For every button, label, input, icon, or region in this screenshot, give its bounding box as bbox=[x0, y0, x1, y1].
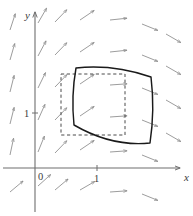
field-arrow bbox=[55, 141, 67, 153]
field-arrow bbox=[10, 108, 14, 124]
field-arrow bbox=[10, 138, 14, 155]
field-arrow bbox=[110, 191, 127, 192]
field-arrow bbox=[38, 73, 45, 88]
field-arrow bbox=[10, 44, 15, 60]
field-arrow bbox=[80, 10, 94, 20]
regions bbox=[61, 67, 153, 144]
field-arrow bbox=[110, 18, 127, 20]
field-arrow bbox=[10, 76, 14, 92]
original-square-region bbox=[61, 74, 125, 135]
vector-field-arrows bbox=[10, 8, 181, 200]
field-arrow bbox=[80, 42, 94, 52]
field-arrow bbox=[38, 41, 46, 56]
figure-canvas: x y 0 1 1 bbox=[0, 0, 193, 216]
field-arrow bbox=[166, 66, 181, 75]
field-arrow bbox=[166, 34, 181, 43]
field-arrow bbox=[142, 155, 158, 161]
field-arrow bbox=[166, 100, 181, 109]
deformed-region bbox=[73, 67, 153, 144]
field-arrow bbox=[142, 55, 158, 61]
origin-label: 0 bbox=[38, 171, 43, 182]
field-arrow bbox=[38, 104, 45, 120]
field-arrow bbox=[38, 136, 44, 152]
field-arrow bbox=[55, 43, 67, 55]
field-arrow bbox=[38, 8, 47, 23]
field-arrow bbox=[110, 50, 127, 52]
field-arrow bbox=[10, 14, 15, 30]
field-arrow bbox=[142, 194, 158, 200]
field-arrow bbox=[110, 116, 127, 117]
y-tick-label-1: 1 bbox=[24, 108, 29, 119]
axis-labels: x y 0 1 1 bbox=[24, 9, 189, 184]
field-arrow bbox=[142, 24, 158, 30]
field-arrow bbox=[110, 84, 127, 85]
field-arrow bbox=[55, 179, 68, 190]
field-arrow bbox=[80, 106, 94, 116]
field-arrow bbox=[10, 181, 23, 192]
x-axis-label: x bbox=[183, 171, 189, 183]
field-arrow bbox=[80, 74, 94, 84]
y-axis-label: y bbox=[24, 9, 30, 21]
field-arrow bbox=[55, 10, 67, 22]
field-arrow bbox=[110, 151, 127, 152]
field-arrow bbox=[80, 140, 94, 150]
field-arrow bbox=[142, 120, 158, 126]
x-tick-label-1: 1 bbox=[94, 173, 99, 184]
field-arrow bbox=[166, 133, 181, 142]
field-arrow bbox=[142, 88, 158, 94]
field-arrow bbox=[80, 182, 95, 191]
vector-field-figure: x y 0 1 1 bbox=[0, 0, 193, 216]
coordinate-axes bbox=[3, 12, 180, 212]
